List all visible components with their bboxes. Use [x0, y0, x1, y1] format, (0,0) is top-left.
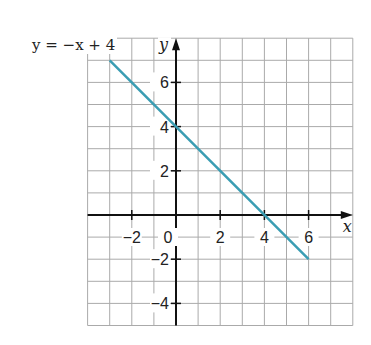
- x-tick-label: 6: [304, 229, 313, 246]
- y-tick-label: −2: [151, 251, 169, 268]
- x-tick-label: 0: [164, 229, 173, 246]
- x-tick-label: 4: [260, 229, 269, 246]
- y-tick-label: 6: [160, 74, 169, 91]
- x-tick-label: −2: [123, 229, 141, 246]
- y-tick-label: 4: [160, 119, 169, 136]
- y-tick-label: −4: [151, 295, 169, 312]
- y-tick-label: 2: [160, 163, 169, 180]
- y-axis-arrow-icon: [172, 38, 180, 50]
- x-tick-label: 2: [216, 229, 225, 246]
- x-axis-label: x: [343, 217, 352, 236]
- y-axis-label: y: [158, 35, 169, 54]
- equation-label: y = −x + 4: [30, 36, 117, 54]
